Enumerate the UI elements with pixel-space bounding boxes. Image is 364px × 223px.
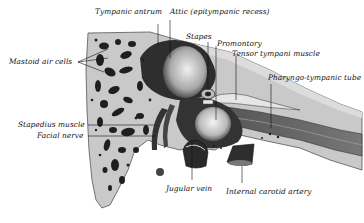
label-stapes: Stapes (186, 33, 212, 40)
label-internal-carotid-artery: Internal carotid artery (226, 188, 312, 195)
jugular-fossa (183, 140, 208, 168)
label-attic: Attic (epitympanic recess) (170, 8, 269, 15)
stapes-shape (201, 89, 215, 104)
label-tympanic-antrum: Tympanic antrum (95, 8, 162, 15)
label-tensor-tympani: Tensor tympani muscle (232, 50, 320, 57)
promontory-shape (195, 107, 231, 141)
middle-ear-diagram: Tympanic antrum Attic (epitympanic reces… (0, 0, 364, 223)
label-facial-nerve: Facial nerve (37, 132, 83, 139)
label-mastoid-air-cells: Mastoid air cells (9, 58, 72, 65)
label-promontory: Promontory (217, 40, 262, 47)
label-pharyngo-tympanic-tube: Pharyngo-tympanic tube (268, 74, 361, 81)
attic-ossicle-mass (163, 46, 207, 98)
label-jugular-vein: Jugular vein (166, 185, 212, 192)
label-stapedius-muscle: Stapedius muscle (18, 121, 85, 128)
